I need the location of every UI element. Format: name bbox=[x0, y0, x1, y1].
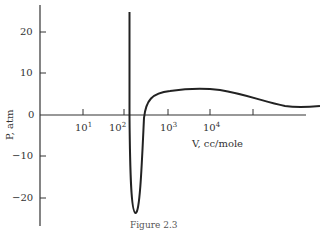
x-tick-label-10-2: 102 bbox=[109, 121, 126, 133]
x-axis-label: V, cc/mole bbox=[192, 138, 243, 149]
x-ticks bbox=[83, 109, 253, 115]
chart-canvas bbox=[0, 0, 320, 231]
x-tick-label-10-3: 103 bbox=[160, 121, 177, 133]
figure-caption: Figure 2.3 bbox=[130, 220, 177, 230]
isotherm-curve bbox=[130, 89, 320, 213]
y-tick-label-20: 20 bbox=[20, 26, 33, 37]
y-tick-label-minus-20: −20 bbox=[12, 192, 33, 203]
x-tick-label-10-1: 101 bbox=[75, 121, 92, 133]
y-tick-label-0: 0 bbox=[28, 109, 34, 120]
x-tick-label-10-4: 104 bbox=[203, 121, 220, 133]
y-tick-label-10: 10 bbox=[20, 67, 33, 78]
y-tick-label-minus-10: −10 bbox=[12, 150, 33, 161]
y-axis-label: P, atm bbox=[4, 109, 15, 140]
